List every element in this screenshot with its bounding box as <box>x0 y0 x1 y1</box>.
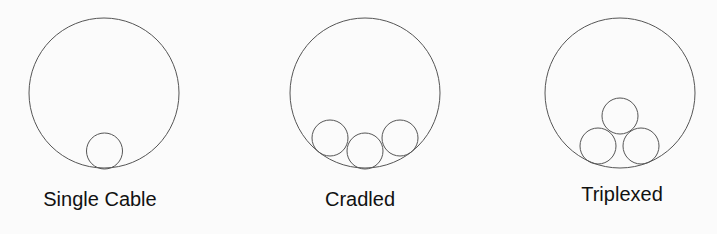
conduit-circle <box>29 18 179 168</box>
panel-cradled: Cradled <box>290 18 440 210</box>
panel-triplexed: Triplexed <box>545 18 695 205</box>
cable-circle-middle <box>347 133 383 169</box>
cable-circle-top <box>602 98 638 134</box>
label-cradled: Cradled <box>325 188 395 210</box>
label-triplexed: Triplexed <box>581 183 663 205</box>
cable-circle-bottom-right <box>623 128 659 164</box>
cable-circle-left <box>312 120 348 156</box>
label-single-cable: Single Cable <box>43 188 156 210</box>
cable-arrangement-diagram: Single Cable Cradled Triplexed <box>0 0 717 234</box>
panel-single-cable: Single Cable <box>29 18 179 210</box>
cable-circle-bottom-left <box>580 128 616 164</box>
cable-circle <box>87 133 123 169</box>
cable-circle-right <box>382 120 418 156</box>
conduit-circle <box>545 18 695 168</box>
conduit-circle <box>290 18 440 168</box>
